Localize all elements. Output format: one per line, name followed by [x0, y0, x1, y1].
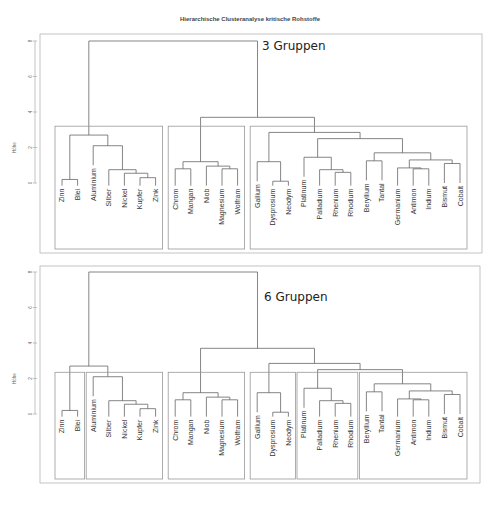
- leaf-label: Gallium: [254, 415, 261, 439]
- leaf-label: Magnesium: [219, 188, 227, 224]
- leaf-label: Blei: [74, 419, 81, 431]
- leaf-label: Nickel: [121, 419, 128, 439]
- plot-frame: [40, 266, 480, 483]
- y-tick-label: 6: [28, 75, 33, 78]
- leaf-label: Dysprosium: [269, 188, 277, 225]
- panel-6-gruppen: 02468HöheZinnBleiAluminiumSilberNickelKu…: [12, 266, 480, 483]
- leaf-label: Germanium: [394, 189, 401, 226]
- y-tick-label: 8: [28, 270, 33, 273]
- leaf-label: Neodym: [285, 189, 293, 215]
- leaf-label: Palladium: [316, 420, 323, 451]
- y-axis-label: Höhe: [12, 373, 17, 384]
- leaf-label: Indium: [425, 188, 432, 209]
- leaf-label: Beryllium: [363, 414, 371, 443]
- cluster-group-box: [250, 126, 467, 249]
- leaf-label: Chrom: [172, 189, 179, 210]
- leaf-label: Chrom: [172, 420, 179, 441]
- leaf-label: Wolfram: [234, 420, 241, 446]
- leaf-label: Antimon: [410, 420, 417, 446]
- leaf-label: Rhodium: [347, 419, 354, 447]
- y-tick-label: 8: [28, 39, 33, 42]
- leaf-label: Indium: [425, 419, 432, 440]
- leaf-label: Zink: [152, 419, 159, 433]
- leaf-label: Mangan: [187, 420, 195, 445]
- panel-3-gruppen: 02468HöheZinnBleiAluminiumSilberNickelKu…: [12, 34, 482, 253]
- leaf-label: Blei: [74, 188, 81, 200]
- leaf-label: Germanium: [394, 420, 401, 457]
- leaf-label: Neodym: [285, 420, 293, 446]
- y-tick-label: 2: [28, 146, 33, 149]
- leaf-label: Nickel: [121, 188, 128, 208]
- leaf-label: Beryllium: [363, 183, 371, 212]
- leaf-label: Rhodium: [347, 188, 354, 216]
- leaf-label: Kupfer: [137, 188, 145, 209]
- leaf-label: Antimon: [410, 189, 417, 215]
- leaf-label: Platinum: [301, 180, 308, 207]
- leaf-label: Silber: [105, 419, 112, 438]
- chart-title: Hierarchische Clusteranalyse kritische R…: [180, 16, 321, 22]
- leaf-label: Magnesium: [219, 419, 227, 455]
- leaf-label: Aluminium: [90, 399, 97, 432]
- leaf-label: Kupfer: [137, 419, 145, 440]
- leaf-label: Rhenium: [332, 188, 339, 216]
- leaf-label: Zink: [152, 188, 159, 202]
- leaf-label: Gallium: [254, 184, 261, 208]
- leaf-label: Cobalt: [457, 186, 464, 206]
- leaf-label: Rhenium: [332, 419, 339, 447]
- leaf-label: Zinn: [59, 189, 66, 203]
- cluster-group-box: [55, 126, 163, 249]
- y-tick-label: 0: [28, 412, 33, 415]
- leaf-label: Tantal: [379, 414, 386, 433]
- leaf-label: Bismut: [441, 417, 448, 438]
- leaf-label: Mangan: [187, 189, 195, 214]
- leaf-label: Wolfram: [234, 189, 241, 215]
- leaf-label: Tantal: [379, 183, 386, 202]
- leaf-label: Zinn: [59, 420, 66, 434]
- plot-frame: [40, 34, 482, 253]
- y-axis-label: Höhe: [12, 142, 17, 153]
- leaf-label: Dysprosium: [269, 419, 277, 456]
- y-tick-label: 4: [28, 110, 33, 113]
- leaf-label: Niob: [203, 420, 210, 435]
- dendrogram-figure: Hierarchische Clusteranalyse kritische R…: [0, 0, 500, 505]
- leaf-label: Bismut: [441, 186, 448, 207]
- panel-group-label: 3 Gruppen: [262, 39, 326, 53]
- leaf-label: Cobalt: [457, 417, 464, 437]
- y-tick-label: 0: [28, 181, 33, 184]
- cluster-group-box: [168, 126, 244, 249]
- y-tick-label: 6: [28, 306, 33, 309]
- leaf-label: Platinum: [301, 411, 308, 438]
- y-tick-label: 4: [28, 341, 33, 344]
- y-tick-label: 2: [28, 377, 33, 380]
- leaf-label: Palladium: [316, 189, 323, 220]
- panel-group-label: 6 Gruppen: [264, 290, 328, 304]
- leaf-label: Aluminium: [90, 168, 97, 201]
- leaf-label: Silber: [105, 188, 112, 207]
- leaf-label: Niob: [203, 189, 210, 204]
